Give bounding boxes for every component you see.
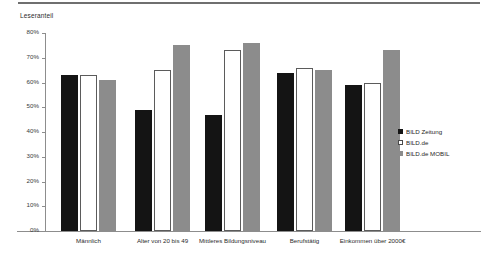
bar-2 [243,43,260,231]
legend-swatch-icon [398,129,403,134]
bar-group [345,33,400,231]
bar-2 [315,70,332,231]
plot-area [45,33,386,231]
bar-1 [80,75,97,231]
top-divider [18,2,480,4]
bar-0 [135,110,152,231]
legend-item[interactable]: BILD.de [398,137,449,147]
bar-1 [154,70,171,231]
y-axis-tick-label: 80% [27,28,39,35]
legend-item[interactable]: BILD Zeitung [398,126,449,136]
y-axis-tick-label: 60% [27,78,39,85]
y-axis-tick-label: 70% [27,53,39,60]
bar-group [205,33,260,231]
y-axis-tick-label: 50% [27,102,39,109]
y-axis-tick-label: 0% [30,226,39,233]
y-axis-title: Leseranteil [20,12,53,19]
x-axis-line [17,231,481,232]
bar-group [135,33,190,231]
y-axis-tick-label: 30% [27,152,39,159]
bar-2 [99,80,116,231]
bar-1 [296,68,313,231]
chart-legend: BILD ZeitungBILD.deBILD.de MOBIL [398,126,449,159]
legend-item[interactable]: BILD.de MOBIL [398,148,449,158]
bar-0 [345,85,362,231]
bar-group [277,33,332,231]
bar-0 [205,115,222,231]
legend-label: BILD Zeitung [406,128,442,135]
y-axis-tick-label: 40% [27,127,39,134]
legend-swatch-icon [398,151,403,156]
bar-2 [173,45,190,231]
bar-0 [277,73,294,231]
bar-1 [224,50,241,231]
y-axis-tick-label: 20% [27,177,39,184]
legend-swatch-icon [398,140,403,145]
bar-chart: Leseranteil 80%70%60%50%40%30%20%10%0% M… [0,0,497,265]
bar-group [61,33,116,231]
legend-label: BILD.de MOBIL [406,150,449,157]
bar-0 [61,75,78,231]
bar-1 [364,83,381,232]
y-axis-tick-mark [42,231,45,232]
y-axis-tick-label: 10% [27,201,39,208]
x-axis-label: Einkommen über 2000€ [313,237,433,244]
legend-label: BILD.de [406,139,428,146]
